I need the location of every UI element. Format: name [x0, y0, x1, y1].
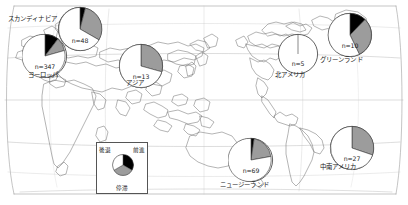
pie-chart-greenland: n=10 [327, 12, 373, 58]
pie-n-label-europe: n=347 [22, 63, 68, 70]
pie-n-label-greenland: n=10 [327, 42, 373, 49]
pie-svg-greenland [327, 12, 373, 58]
pie-n-label-latin-america: n=27 [329, 155, 375, 162]
pie-chart-new-zealand: n=69 [228, 137, 274, 183]
legend-pie-icon [112, 154, 134, 176]
world-glacier-pie-map-figure: n=48 スカンディナビア n=347 ヨーロッパ n=13 アジア n=5 北… [0, 0, 408, 205]
pie-svg-north-america [277, 33, 319, 75]
region-label-greenland: グリーンランド [320, 55, 363, 64]
region-label-latin-america: 中南アメリカ [320, 162, 357, 171]
pie-n-label-new-zealand: n=69 [228, 167, 274, 174]
region-label-scandinavia: スカンディナビア [8, 14, 57, 23]
legend-label-stationary: 停滞 [97, 184, 147, 192]
legend-label-advance: 前進 [133, 146, 145, 154]
legend-label-retreat: 後退 [99, 146, 111, 154]
pie-n-label-north-america: n=5 [277, 60, 319, 67]
pie-svg-new-zealand [228, 137, 274, 183]
pie-chart-north-america: n=5 [277, 33, 319, 75]
region-label-new-zealand: ニュージーランド [220, 180, 269, 189]
legend-box: 後退 前進 停滞 [96, 142, 148, 194]
region-label-asia: アジア [126, 78, 144, 87]
region-label-north-america: 北アメリカ [275, 70, 306, 79]
region-label-europe: ヨーロッパ [28, 70, 59, 79]
